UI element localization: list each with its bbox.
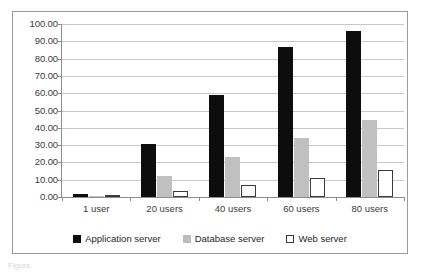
bar-group [267,24,335,197]
x-axis-tick-mark [267,197,268,201]
bar [209,95,224,197]
y-axis-tick-mark [57,59,61,60]
bar [378,170,393,197]
y-axis-tick-mark [57,128,61,129]
legend-item-label: Application server [85,234,161,244]
bar [278,47,293,198]
x-axis-tick-mark [199,197,200,201]
bar-group [336,24,404,197]
bar [105,195,120,197]
bar [73,194,88,197]
legend-item-label: Database server [195,234,265,244]
legend-item[interactable]: Web server [286,234,346,244]
x-axis-category-label: 80 users [336,203,404,214]
bar [362,120,377,197]
bar [294,138,309,197]
bar [173,191,188,197]
x-axis-tick-mark [130,197,131,201]
y-axis-tick-mark [57,197,61,198]
y-axis-tick-label: 0.00 [6,192,58,202]
y-axis-tick-mark [57,93,61,94]
y-axis-tick-label: 50.00 [6,106,58,116]
x-axis-category-label: 60 users [267,203,335,214]
y-axis-tick-label: 10.00 [6,175,58,185]
y-axis-tick-mark [57,145,61,146]
x-axis-tick-mark [404,197,405,201]
x-axis-category-label: 20 users [130,203,198,214]
bar [225,157,240,197]
x-axis-tick-mark [62,197,63,201]
bar [157,176,172,197]
figure-caption: Figure [8,261,178,271]
y-axis-tick-label: 80.00 [6,54,58,64]
y-axis-tick-mark [57,24,61,25]
y-axis-tick-mark [57,76,61,77]
y-axis-tick-label: 20.00 [6,157,58,167]
y-axis-tick-label: 100.00 [6,19,58,29]
y-axis-tick-label: 90.00 [6,36,58,46]
bar-group [199,24,267,197]
plot-area [62,24,404,197]
legend-swatch-icon [183,235,191,243]
y-axis-tick-label: 40.00 [6,123,58,133]
y-axis-tick-label: 70.00 [6,71,58,81]
x-axis-category-label: 40 users [199,203,267,214]
y-axis-tick-mark [57,41,61,42]
y-axis-tick-label: 60.00 [6,88,58,98]
legend-swatch-icon [286,235,294,243]
x-axis-category-label: 1 user [62,203,130,214]
legend-item[interactable]: Application server [73,234,161,244]
bar [141,144,156,197]
legend-item-label: Web server [298,234,346,244]
legend-swatch-icon [73,235,81,243]
y-axis-tick-label: 30.00 [6,140,58,150]
bar [241,185,256,197]
chart-legend: Application serverDatabase serverWeb ser… [12,231,408,247]
bar-group [130,24,198,197]
bar [346,31,361,197]
y-axis-tick-mark [57,180,61,181]
y-axis-tick-mark [57,111,61,112]
bar [89,196,104,197]
y-axis-tick-mark [57,162,61,163]
bar-group [62,24,130,197]
gridline [62,197,404,198]
bar-chart-figure: 0.0010.0020.0030.0040.0050.0060.0070.008… [0,0,421,272]
x-axis-tick-mark [336,197,337,201]
legend-item[interactable]: Database server [183,234,265,244]
bar [310,178,325,197]
